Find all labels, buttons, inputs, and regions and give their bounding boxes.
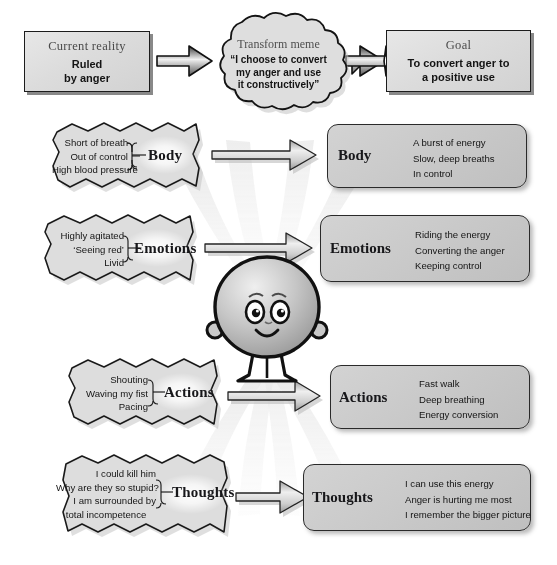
goal-heading: Goal xyxy=(446,38,472,53)
category-label-body-before: Body xyxy=(148,147,182,164)
current-reality-box: Current reality Ruled by anger xyxy=(24,31,150,92)
transform-meme-heading: Transform meme xyxy=(237,37,320,52)
after-item: Energy conversion xyxy=(419,407,498,423)
before-item: High blood pressure xyxy=(52,163,128,177)
before-item: Highly agitated xyxy=(40,229,124,243)
before-items-thoughts: I could kill him Why are they so stupid?… xyxy=(56,467,156,521)
category-label-emotions-before: Emotions xyxy=(134,240,196,257)
transform-meme-cloud: Transform meme “I choose to convert my a… xyxy=(203,16,354,113)
current-reality-line-1: Ruled xyxy=(72,57,103,71)
before-item: Livid xyxy=(40,256,124,270)
category-label-emotions-after: Emotions xyxy=(330,240,391,257)
after-item: Anger is hurting me most xyxy=(405,492,531,508)
after-item: Keeping control xyxy=(415,258,505,274)
before-items-actions: Shouting Waving my fist Pacing xyxy=(62,373,148,414)
transform-meme-line-3: it constructively” xyxy=(238,79,320,92)
after-items-actions: Fast walk Deep breathing Energy conversi… xyxy=(419,376,498,423)
before-item: I could kill him xyxy=(56,467,156,481)
before-item: Why are they so stupid? xyxy=(56,481,156,495)
after-item: Converting the anger xyxy=(415,243,505,259)
transform-meme-line-2: my anger and use xyxy=(236,67,321,80)
goal-line-1: To convert anger to xyxy=(408,56,510,70)
diagram-canvas: Current reality Ruled by anger Transform… xyxy=(0,0,557,565)
after-item: Riding the energy xyxy=(415,227,505,243)
category-label-thoughts-before: Thoughts xyxy=(172,484,234,501)
after-panel-emotions: Emotions Riding the energy Converting th… xyxy=(320,215,530,282)
before-item: ‘Seeing red’ xyxy=(40,243,124,257)
current-reality-heading: Current reality xyxy=(48,39,126,54)
after-item: In control xyxy=(413,166,495,182)
before-item: I am surrounded by xyxy=(56,494,156,508)
after-items-body: A burst of energy Slow, deep breaths In … xyxy=(413,135,495,182)
transform-meme-line-1: “I choose to convert xyxy=(230,54,327,67)
after-item: Slow, deep breaths xyxy=(413,151,495,167)
before-item: Shouting xyxy=(62,373,148,387)
before-item: total incompetence xyxy=(56,508,156,522)
before-items-body: Short of breath Out of control High bloo… xyxy=(52,136,128,177)
category-label-actions-before: Actions xyxy=(164,384,214,401)
after-panel-body: Body A burst of energy Slow, deep breath… xyxy=(327,124,527,188)
before-item: Out of control xyxy=(52,150,128,164)
after-item: A burst of energy xyxy=(413,135,495,151)
before-item: Waving my fist xyxy=(62,387,148,401)
after-panel-thoughts: Thoughts I can use this energy Anger is … xyxy=(303,464,531,531)
before-items-emotions: Highly agitated ‘Seeing red’ Livid xyxy=(40,229,124,270)
after-item: Fast walk xyxy=(419,376,498,392)
after-item: Deep breathing xyxy=(419,392,498,408)
after-items-emotions: Riding the energy Converting the anger K… xyxy=(415,227,505,274)
after-items-thoughts: I can use this energy Anger is hurting m… xyxy=(405,476,531,523)
goal-box: Goal To convert anger to a positive use xyxy=(386,30,531,92)
category-label-body-after: Body xyxy=(338,147,371,164)
after-panel-actions: Actions Fast walk Deep breathing Energy … xyxy=(330,365,530,429)
current-reality-line-2: by anger xyxy=(64,71,110,85)
goal-line-2: a positive use xyxy=(422,70,495,84)
after-item: I remember the bigger picture xyxy=(405,507,531,523)
before-item: Short of breath xyxy=(52,136,128,150)
category-label-actions-after: Actions xyxy=(339,389,387,406)
before-item: Pacing xyxy=(62,400,148,414)
after-item: I can use this energy xyxy=(405,476,531,492)
category-label-thoughts-after: Thoughts xyxy=(312,489,373,506)
